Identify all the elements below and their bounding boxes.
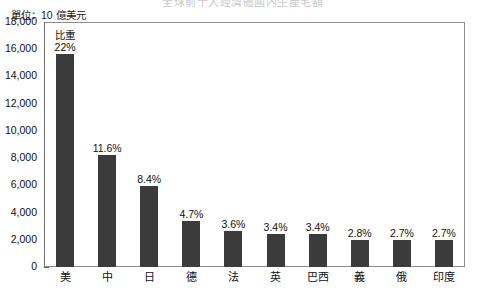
bar[interactable] xyxy=(98,155,116,267)
bar-group[interactable]: 3.6% xyxy=(212,22,254,267)
bar-value-label: 3.4% xyxy=(264,221,288,233)
bar-group[interactable]: 2.7% xyxy=(423,22,465,267)
y-axis-tick-label: 0 xyxy=(31,260,37,272)
x-axis-tick-label: 印度 xyxy=(423,268,465,284)
y-axis-tick-label: 14,000 xyxy=(5,69,37,81)
y-axis-tick-label: 2,000 xyxy=(11,233,37,245)
bar-group[interactable]: 8.4% xyxy=(128,22,170,267)
bar-group[interactable]: 3.4% xyxy=(297,22,339,267)
bar-group[interactable]: 11.6% xyxy=(86,22,128,267)
x-axis-tick-label: 巴西 xyxy=(297,268,339,284)
y-axis-tick-label: 4,000 xyxy=(11,206,37,218)
bar-value-label: 11.6% xyxy=(93,142,122,154)
bar[interactable] xyxy=(351,240,369,267)
bar-value-label: 3.6% xyxy=(221,218,245,230)
bar-group[interactable]: 2.8% xyxy=(339,22,381,267)
y-axis-tick-label: 16,000 xyxy=(5,42,37,54)
bar-value-label: 2.7% xyxy=(390,227,414,239)
x-axis-tick-label: 美 xyxy=(44,268,86,284)
bar-group[interactable]: 22%比重 xyxy=(44,22,86,267)
bar[interactable] xyxy=(224,231,242,267)
bar-value-label: 2.7% xyxy=(432,227,456,239)
bar-value-label: 4.7% xyxy=(179,208,203,220)
bar[interactable] xyxy=(182,221,200,267)
bar-value-label: 8.4% xyxy=(137,173,161,185)
x-axis-tick-label: 英 xyxy=(255,268,297,284)
bar[interactable] xyxy=(435,240,453,267)
y-axis-tick-label: 18,000 xyxy=(5,15,37,27)
y-axis-tick-label: 8,000 xyxy=(11,151,37,163)
bars-layer: 22%比重11.6%8.4%4.7%3.6%3.4%3.4%2.8%2.7%2.… xyxy=(44,22,465,267)
bar-group[interactable]: 3.4% xyxy=(255,22,297,267)
bar[interactable] xyxy=(140,186,158,267)
bar[interactable] xyxy=(56,54,74,267)
bar[interactable] xyxy=(267,234,285,267)
x-axis-tick-label: 俄 xyxy=(381,268,423,284)
bar[interactable] xyxy=(393,240,411,267)
y-axis-tick-label: 10,000 xyxy=(5,124,37,136)
bar[interactable] xyxy=(309,234,327,267)
x-axis-tick-label: 日 xyxy=(128,268,170,284)
bar-group[interactable]: 4.7% xyxy=(170,22,212,267)
bar-value-label: 22% xyxy=(55,41,76,53)
bar-value-label: 2.8% xyxy=(348,227,372,239)
x-axis-tick-label: 中 xyxy=(86,268,128,284)
x-axis-tick-label: 法 xyxy=(212,268,254,284)
y-axis-tick-label: 12,000 xyxy=(5,97,37,109)
y-axis-tick-label: 6,000 xyxy=(11,178,37,190)
bar-group[interactable]: 2.7% xyxy=(381,22,423,267)
x-axis-tick-label: 義 xyxy=(339,268,381,284)
x-axis-tick-label: 德 xyxy=(170,268,212,284)
y-axis: 18,00016,00014,00012,00010,0008,0006,000… xyxy=(0,22,44,267)
x-axis: 美中日德法英巴西義俄印度 xyxy=(44,268,465,296)
bar-note-label: 比重 xyxy=(55,29,75,41)
bar-value-label: 3.4% xyxy=(306,221,330,233)
